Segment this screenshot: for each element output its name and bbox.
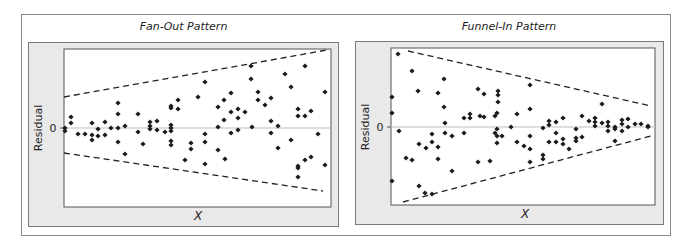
right-y-axis-label: Residual (359, 104, 372, 150)
left-zero-tick-label: 0 (50, 122, 57, 135)
left-y-axis-label: Residual (32, 105, 45, 151)
plots-canvas: 0 Residual X 0 Residual X (0, 0, 690, 243)
left-x-axis-label: X (193, 209, 203, 223)
right-x-axis-label: X (520, 207, 530, 221)
right-zero-tick-label: 0 (377, 121, 384, 134)
